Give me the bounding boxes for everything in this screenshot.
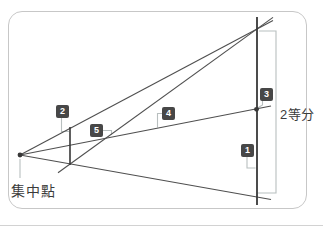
midpoint-dot xyxy=(254,107,259,112)
vanishing-point-label: 集中點 xyxy=(11,180,56,200)
step-marker-1: 1 xyxy=(241,144,254,157)
vanishing-line-bottom xyxy=(20,155,271,200)
vanishing-point-dot xyxy=(18,153,23,158)
step-marker-4: 4 xyxy=(162,107,175,120)
perspective-diagram: 1 2 3 4 5 集中點 2等分 xyxy=(0,0,323,227)
page-edge-line xyxy=(0,225,323,226)
step-marker-5: 5 xyxy=(90,124,103,137)
bisection-label: 2等分 xyxy=(280,104,315,123)
vanishing-line-top xyxy=(20,21,273,156)
step3-leader xyxy=(258,101,263,108)
bisection-bracket xyxy=(258,31,277,193)
step1-leader xyxy=(247,157,256,168)
step-marker-3: 3 xyxy=(260,88,273,101)
step-marker-2: 2 xyxy=(56,105,69,118)
